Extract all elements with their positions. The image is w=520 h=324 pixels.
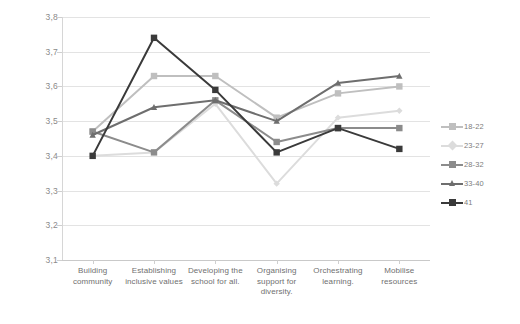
x-axis-tick-mark — [399, 260, 400, 264]
legend-item-33-40[interactable]: 33-40 — [441, 174, 520, 193]
x-axis-tick-mark — [338, 260, 339, 264]
x-axis-label: Orchestratinglearning. — [307, 266, 368, 287]
legend-item-23-27[interactable]: 23-27 — [441, 136, 520, 155]
series-18-22 — [89, 73, 402, 135]
x-axis-label-line: inclusive values — [123, 277, 184, 288]
x-axis-label-line: learning. — [307, 277, 368, 288]
series-line — [93, 76, 400, 135]
x-axis-tick-mark — [93, 260, 94, 264]
data-point — [335, 90, 341, 96]
legend-swatch — [441, 160, 463, 170]
x-axis-label-line: Developing the — [185, 266, 246, 277]
data-point — [273, 149, 279, 155]
y-axis-tick-mark — [57, 156, 62, 157]
legend-label: 41 — [463, 198, 473, 207]
x-axis-tick-mark — [215, 260, 216, 264]
data-point — [151, 73, 157, 79]
legend-swatch — [441, 122, 463, 132]
x-axis-label-line: Mobilise — [369, 266, 430, 277]
legend-marker — [448, 140, 458, 150]
data-point — [396, 108, 402, 114]
x-axis-label: Buildingcommunity — [62, 266, 123, 287]
legend-item-28-32[interactable]: 28-32 — [441, 155, 520, 174]
x-axis-label: Mobiliseresources — [369, 266, 430, 287]
x-axis-label-line: Building — [62, 266, 123, 277]
x-axis-label-line: diversity. — [246, 287, 307, 298]
series-28-32 — [89, 97, 402, 155]
y-axis-tick-mark — [57, 225, 62, 226]
x-axis-label: Organisingsupport fordiversity. — [246, 266, 307, 298]
y-axis-tick-mark — [57, 17, 62, 18]
legend-label: 33-40 — [463, 179, 484, 188]
x-axis-label-line: Orchestrating — [307, 266, 368, 277]
y-axis-tick-mark — [57, 52, 62, 53]
data-point — [396, 146, 402, 152]
data-point — [396, 83, 402, 89]
data-point — [396, 125, 402, 131]
x-axis-tick-mark — [277, 260, 278, 264]
x-axis-label-line: community — [62, 277, 123, 288]
legend-marker — [449, 199, 456, 206]
x-axis-label-line: resources — [369, 277, 430, 288]
y-axis-tick-mark — [57, 121, 62, 122]
x-axis-labels: BuildingcommunityEstablishinginclusive v… — [62, 266, 430, 318]
x-axis-label-line: Establishing — [123, 266, 184, 277]
legend-swatch — [441, 141, 463, 151]
data-point — [89, 153, 95, 159]
x-axis-label: Developing theschool for all. — [185, 266, 246, 287]
data-point — [335, 125, 341, 131]
legend-item-41[interactable]: 41 — [441, 193, 520, 212]
data-point — [212, 87, 218, 93]
legend-label: 28-32 — [463, 160, 484, 169]
legend-marker — [449, 180, 455, 186]
legend-label: 18-22 — [463, 122, 484, 131]
x-axis-label-line: Organising — [246, 266, 307, 277]
data-point — [151, 35, 157, 41]
line-chart: 3,83,73,63,53,43,33,23,1 Buildingcommuni… — [0, 0, 520, 324]
legend-label: 23-27 — [463, 141, 484, 150]
y-axis-tick-mark — [57, 260, 62, 261]
legend-item-18-22[interactable]: 18-22 — [441, 117, 520, 136]
legend-marker — [449, 161, 456, 168]
y-axis-tick-mark — [57, 86, 62, 87]
x-axis-label-line: support for — [246, 277, 307, 288]
x-axis-tick-mark — [154, 260, 155, 264]
legend: 18-2223-2728-3233-4041 — [441, 117, 520, 212]
series-23-27 — [89, 101, 402, 187]
y-axis-tick-mark — [57, 191, 62, 192]
series-line — [93, 76, 400, 132]
legend-marker — [449, 123, 456, 130]
series-line — [93, 104, 400, 184]
legend-swatch — [441, 198, 463, 208]
legend-swatch — [441, 179, 463, 189]
x-axis-label-line: school for all. — [185, 277, 246, 288]
x-axis-label: Establishinginclusive values — [123, 266, 184, 287]
data-point — [273, 139, 279, 145]
data-point — [151, 149, 157, 155]
data-point — [212, 73, 218, 79]
